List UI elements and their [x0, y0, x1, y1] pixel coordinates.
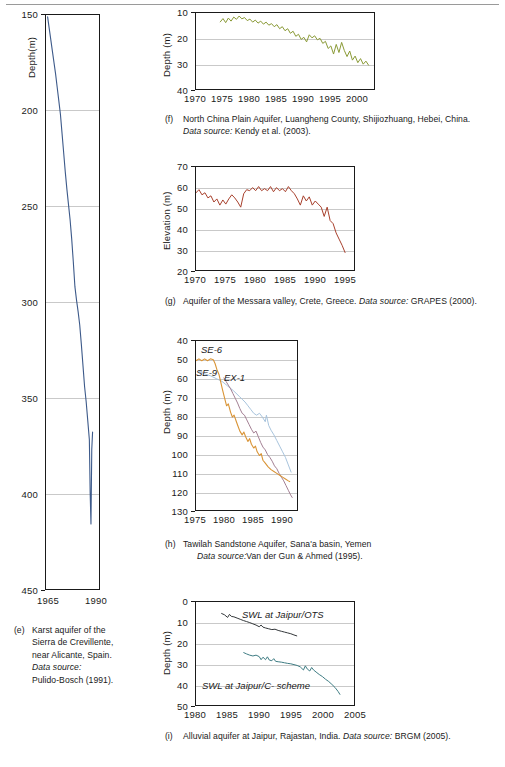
panel-f-xtick-1995: 1995	[316, 93, 344, 104]
panel-f-xtick-1975: 1975	[208, 93, 236, 104]
panel-e-xtick-1990: 1990	[76, 595, 116, 606]
panel-i-xtick-2005: 2005	[341, 709, 369, 720]
panel-e-plot-area	[45, 14, 100, 590]
panel-i-caption-text: Alluvial aquifer at Jaipur, Rajastan, In…	[183, 731, 340, 741]
panel-g-xtick-1975: 1975	[211, 274, 239, 285]
panel-f-xtick-2000: 2000	[343, 93, 371, 104]
panel-f-xtick-1990: 1990	[289, 93, 317, 104]
panel-e-tick-bottom	[41, 590, 45, 591]
panel-h: Depth (m) 40 50 60 70 80 90 100 110 120 …	[150, 330, 505, 585]
panel-h-caption-marker: (h)	[165, 538, 176, 550]
panel-g-source-label: Data source:	[359, 296, 408, 306]
panel-h-ytick-40: 40	[163, 335, 188, 346]
panel-h-xtick-1980: 1980	[210, 514, 238, 525]
panel-h-ytick-80: 80	[163, 411, 188, 422]
panel-i-ytick-30: 30	[166, 659, 188, 670]
panel-e-caption-line-2: Sierra de Crevillente,	[32, 637, 113, 647]
panel-i-xtick-1985: 1985	[213, 709, 241, 720]
panel-h-xtick-1985: 1985	[239, 514, 267, 525]
panel-h-ytick-100: 100	[163, 449, 188, 460]
panel-i-xtick-1995: 1995	[277, 709, 305, 720]
panel-g: Elevation (m) 70 60 50 40 30 20 1970 197…	[150, 155, 505, 325]
panel-h-caption-text: Tawilah Sandstone Aquifer, Sana'a basin,…	[183, 539, 371, 549]
panel-g-caption-marker: (g)	[165, 295, 176, 307]
panel-h-ytick-70: 70	[163, 392, 188, 403]
panel-h-tick-130	[191, 511, 195, 512]
panel-f-ytick-20: 20	[166, 33, 188, 44]
panel-f-series-path	[196, 13, 374, 89]
panel-e-ytick-350: 350	[10, 393, 38, 404]
panel-f-xtick-1980: 1980	[235, 93, 263, 104]
panel-g-tick-20	[191, 271, 195, 272]
panel-h-label-se9: SE-9	[196, 367, 217, 378]
panel-h-label-se6: SE-6	[201, 344, 222, 355]
panel-h-ytick-110: 110	[163, 468, 188, 479]
panel-g-ytick-70: 70	[166, 161, 188, 172]
panel-g-xtick-1980: 1980	[241, 274, 269, 285]
panel-g-caption: Aquifer of the Messara valley, Crete, Gr…	[183, 295, 503, 307]
panel-e-caption: Karst aquifer of the Sierra de Crevillen…	[32, 624, 150, 686]
panel-i-caption-marker: (i)	[165, 730, 173, 742]
panel-f-caption-text: North China Plain Aquifer, Luangheng Cou…	[183, 114, 470, 124]
panel-g-xtick-1995: 1995	[331, 274, 359, 285]
panel-f-xtick-1985: 1985	[262, 93, 290, 104]
panel-e-ytick-150: 150	[10, 9, 38, 20]
panel-e-ytick-400: 400	[10, 489, 38, 500]
panel-g-ytick-60: 60	[166, 182, 188, 193]
panel-f-xtick-1970: 1970	[181, 93, 209, 104]
panel-e-ytick-300: 300	[10, 297, 38, 308]
panel-i-xtick-1990: 1990	[245, 709, 273, 720]
panel-g-y-axis-title: Elevation (m)	[161, 191, 172, 250]
panel-h-ytick-60: 60	[163, 373, 188, 384]
panel-g-plot-area	[195, 166, 355, 271]
panel-f-caption: North China Plain Aquifer, Luangheng Cou…	[183, 113, 503, 138]
panel-e-source-label: Data source:	[32, 662, 81, 672]
panel-g-ytick-40: 40	[166, 224, 188, 235]
panel-f-tick-40	[191, 90, 195, 91]
panel-i-source-label: Data source:	[343, 731, 392, 741]
panel-h-ytick-50: 50	[163, 354, 188, 365]
panel-g-series-path	[196, 167, 354, 270]
panel-e-caption-marker: (e)	[14, 624, 25, 636]
panel-i-ytick-20: 20	[166, 638, 188, 649]
panel-f-source-value: Kendy et al. (2003).	[235, 126, 311, 136]
panel-g-source-value: GRAPES (2000).	[411, 296, 477, 306]
panel-i-ytick-40: 40	[166, 680, 188, 691]
panel-h-ytick-120: 120	[163, 487, 188, 498]
panel-g-ytick-50: 50	[166, 203, 188, 214]
panel-g-xtick-1985: 1985	[271, 274, 299, 285]
panel-i-ytick-0: 0	[166, 596, 188, 607]
panel-h-source-value: Van der Gun & Ahmed (1995).	[246, 551, 362, 561]
panel-g-xtick-1990: 1990	[301, 274, 329, 285]
panel-i-xtick-2000: 2000	[309, 709, 337, 720]
panel-f-caption-marker: (f)	[165, 113, 173, 125]
panel-i-tick-50	[191, 706, 195, 707]
panel-i-source-value: BRGM (2005).	[395, 731, 451, 741]
panel-e-caption-line-3: near Alicante, Spain.	[32, 650, 112, 660]
panel-i-caption: Alluvial aquifer at Jaipur, Rajastan, In…	[183, 730, 503, 742]
panel-f-ytick-30: 30	[166, 59, 188, 70]
panel-g-caption-text: Aquifer of the Messara valley, Crete, Gr…	[183, 296, 357, 306]
panel-i-label-cscheme: SWL at Jaipur/C- scheme	[202, 680, 310, 691]
panel-i-xtick-1980: 1980	[181, 709, 209, 720]
panel-e-source-value: Pulido-Bosch (1991).	[32, 675, 113, 685]
panel-f-ytick-10: 10	[166, 7, 188, 18]
panel-e: Depth(m) 150 200 250 300 350 400 450 196…	[0, 0, 150, 640]
panel-i-ytick-10: 10	[166, 617, 188, 628]
panel-e-xtick-1965: 1965	[28, 595, 68, 606]
panel-h-source-label: Data source:	[197, 551, 246, 561]
panel-f: Depth (m) 10 20 30 40 1970 1975 1980 198…	[150, 0, 505, 150]
panel-e-series-path	[46, 15, 99, 589]
panel-e-ytick-200: 200	[10, 105, 38, 116]
panel-g-xtick-1970: 1970	[181, 274, 209, 285]
panel-e-ytick-250: 250	[10, 201, 38, 212]
panel-h-xtick-1990: 1990	[268, 514, 296, 525]
panel-e-caption-line-1: Karst aquifer of the	[32, 625, 106, 635]
panel-g-ytick-30: 30	[166, 245, 188, 256]
panel-i-label-ots: SWL at Jaipur/OTS	[242, 609, 324, 620]
panel-f-source-label: Data source:	[183, 126, 232, 136]
panel-i: Depth (m) 0 10 20 30 40 50 SWL at Jaipur…	[150, 590, 505, 750]
panel-h-ytick-90: 90	[163, 430, 188, 441]
panel-h-xtick-1975: 1975	[181, 514, 209, 525]
panel-f-plot-area	[195, 12, 375, 90]
